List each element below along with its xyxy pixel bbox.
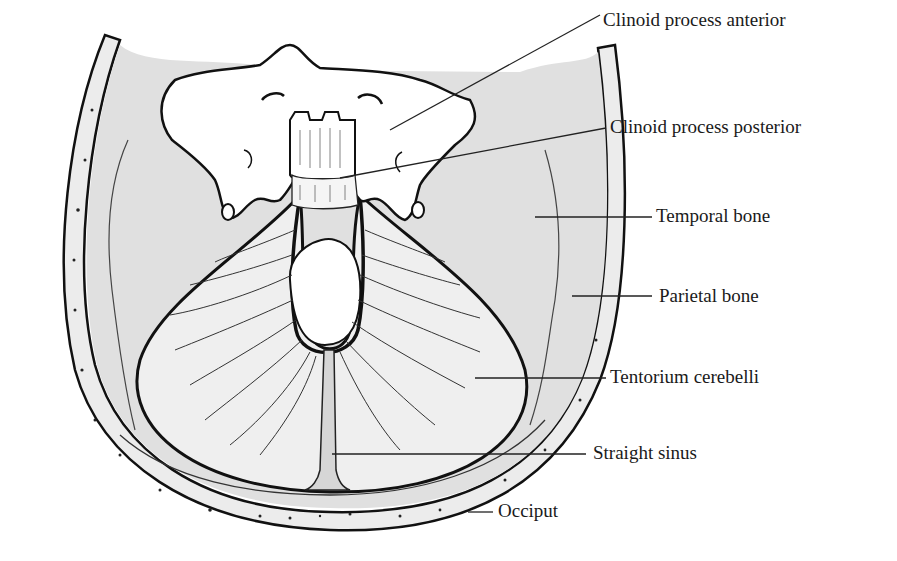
foramen: [290, 239, 360, 345]
label-straight-sinus: Straight sinus: [593, 443, 697, 462]
label-clinoid-process-anterior: Clinoid process anterior: [603, 10, 786, 29]
label-occiput: Occiput: [498, 501, 558, 520]
label-temporal-bone: Temporal bone: [656, 206, 770, 225]
anatomical-diagram: Clinoid process anterior Clinoid process…: [0, 0, 897, 561]
label-parietal-bone: Parietal bone: [659, 286, 759, 305]
label-tentorium-cerebelli: Tentorium cerebelli: [610, 367, 759, 386]
skull-base-illustration: [0, 0, 897, 561]
label-clinoid-process-posterior: Clinoid process posterior: [610, 117, 801, 136]
